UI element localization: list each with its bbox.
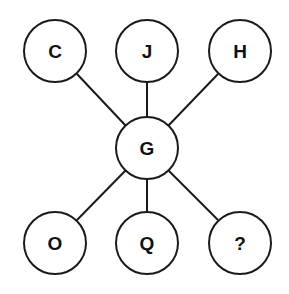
node-q: Q bbox=[116, 212, 178, 274]
edge-g-h bbox=[168, 74, 218, 126]
question-mark: ? bbox=[234, 233, 246, 254]
node-label: O bbox=[48, 233, 63, 254]
node-j: J bbox=[116, 20, 178, 82]
edge-g-c bbox=[77, 74, 126, 126]
node-h: H bbox=[209, 20, 271, 82]
node-label: H bbox=[233, 41, 247, 62]
node-center-g: G bbox=[116, 117, 178, 179]
node-unknown: ? bbox=[209, 212, 271, 274]
node-label: G bbox=[140, 138, 155, 159]
edge-g-unknown bbox=[168, 170, 218, 220]
node-o: O bbox=[24, 212, 86, 274]
node-label: Q bbox=[140, 233, 155, 254]
edge-g-o bbox=[77, 170, 126, 220]
puzzle-diagram: C J H G O Q ? bbox=[0, 0, 289, 294]
node-label: C bbox=[48, 41, 62, 62]
node-c: C bbox=[24, 20, 86, 82]
node-label: J bbox=[142, 41, 153, 62]
